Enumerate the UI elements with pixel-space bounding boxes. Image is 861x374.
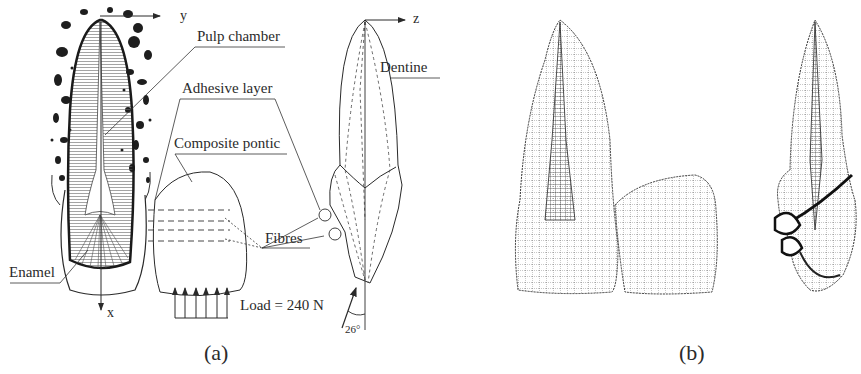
- label-adhesive-layer: Adhesive layer: [182, 80, 272, 97]
- composite-pontic: [153, 172, 246, 296]
- label-fibres: Fibres: [265, 230, 303, 247]
- figure: Pulp chamber Adhesive layer Composite po…: [0, 0, 861, 374]
- axis-y-label: y: [180, 8, 187, 24]
- caption-a: (a): [204, 340, 228, 366]
- label-enamel: Enamel: [9, 264, 55, 281]
- label-pulp-chamber: Pulp chamber: [197, 28, 280, 45]
- label-angle: 26°: [345, 321, 360, 338]
- caption-b: (b): [679, 340, 705, 366]
- label-load: Load = 240 N: [240, 297, 324, 314]
- fe-mesh-side: [775, 20, 856, 291]
- fe-mesh-front: [515, 20, 717, 294]
- figure-drawing: [0, 0, 861, 374]
- axis-x-label: x: [107, 305, 114, 321]
- label-dentine: Dentine: [380, 59, 427, 76]
- axis-z-label: z: [413, 11, 419, 27]
- label-composite-pontic: Composite pontic: [174, 135, 280, 152]
